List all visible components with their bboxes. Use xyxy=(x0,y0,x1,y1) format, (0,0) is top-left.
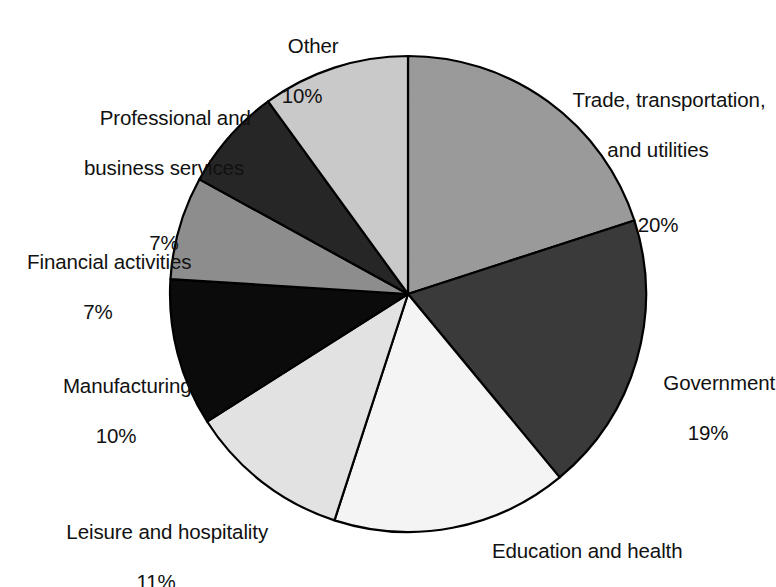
pie-chart: Other 10% Trade, transportation, and uti… xyxy=(0,0,776,587)
slice-label-manufacturing-percent: 10% xyxy=(38,423,194,448)
slice-label-manufacturing-text: Manufacturing xyxy=(63,374,192,397)
slice-label-trade: Trade, transportation, and utilities 20% xyxy=(540,62,776,287)
slice-label-government-percent: 19% xyxy=(640,420,776,445)
slice-label-professional: Professional and business services 7% xyxy=(58,80,270,305)
slice-label-leisure-text: Leisure and hospitality xyxy=(66,520,268,543)
slice-label-trade-percent: 20% xyxy=(540,212,776,237)
slice-label-leisure: Leisure and hospitality 11% xyxy=(36,494,276,587)
slice-label-leisure-percent: 11% xyxy=(36,569,276,587)
slice-label-professional-line1: Professional and xyxy=(100,106,251,129)
slice-label-professional-line2: business services xyxy=(58,155,270,180)
slice-label-other-text: Other xyxy=(288,34,339,57)
slice-label-trade-line2: and utilities xyxy=(540,137,776,162)
slice-label-trade-line1: Trade, transportation, xyxy=(572,88,765,111)
slice-label-government-text: Government xyxy=(663,371,775,394)
slice-label-professional-percent: 7% xyxy=(58,230,270,255)
slice-label-education: Education and health services 16% xyxy=(462,513,690,587)
slice-label-education-line1: Education and health xyxy=(492,539,683,562)
slice-label-government: Government 19% xyxy=(640,345,776,495)
